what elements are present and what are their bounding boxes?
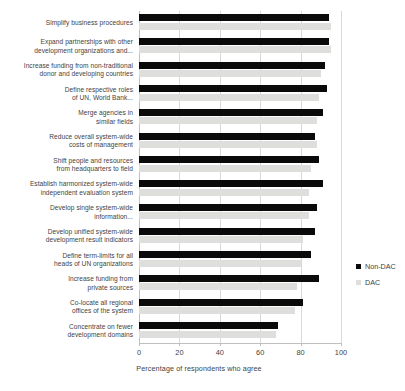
category-label-line: development organizations and...	[0, 47, 133, 55]
category-label-line: heads of UN organizations	[0, 260, 133, 268]
bar-group	[139, 248, 341, 272]
bar-dac	[139, 307, 295, 314]
bar-dac	[139, 23, 331, 30]
bar-dac	[139, 283, 297, 290]
bar-group	[139, 82, 341, 106]
bar-dac	[139, 70, 321, 77]
x-tick-label-20: 20	[175, 348, 183, 357]
category-label: Develop single system-wideinformation...	[0, 204, 133, 221]
bar-non-dac	[139, 180, 323, 187]
category-label: Shift people and resourcesfrom headquart…	[0, 157, 133, 174]
bar-dac	[139, 46, 331, 53]
bar-non-dac	[139, 14, 329, 21]
x-axis-title: Percentage of respondents who agree	[0, 364, 398, 373]
category-label-line: Establish harmonized system-wide	[0, 180, 133, 188]
chart-legend: Non-DAC DAC	[356, 262, 402, 294]
category-label: Simplify business procedures	[0, 19, 133, 27]
x-axis-line	[139, 343, 341, 344]
category-label-line: Define respective roles	[0, 86, 133, 94]
category-label-line: from headquarters to field	[0, 165, 133, 173]
category-label-line: Shift people and resources	[0, 157, 133, 165]
category-label-line: development domains	[0, 331, 133, 339]
category-label-line: Develop unified system-wide	[0, 228, 133, 236]
category-label-line: Develop single system-wide	[0, 204, 133, 212]
x-tick-mark-60	[260, 343, 261, 346]
plot-area	[139, 11, 341, 343]
bar-dac	[139, 260, 301, 267]
category-label-line: Reduce overall system-wide	[0, 133, 133, 141]
legend-swatch-dac-icon	[356, 280, 361, 285]
bar-non-dac	[139, 275, 319, 282]
bar-group	[139, 224, 341, 248]
bar-non-dac	[139, 299, 303, 306]
category-label-line: donor and developing countries	[0, 70, 133, 78]
bar-dac	[139, 117, 317, 124]
x-tick-label-80: 80	[296, 348, 304, 357]
bar-chart: Simplify business proceduresExpand partn…	[0, 0, 405, 391]
category-label: Establish harmonized system-wideindepend…	[0, 180, 133, 197]
category-label: Concentrate on fewerdevelopment domains	[0, 323, 133, 340]
category-label: Define term-limits for allheads of UN or…	[0, 252, 133, 269]
bar-dac	[139, 331, 276, 338]
legend-swatch-non-dac-icon	[356, 264, 361, 269]
category-label-line: private sources	[0, 284, 133, 292]
bar-dac	[139, 94, 319, 101]
category-label-line: development result indicators	[0, 236, 133, 244]
category-label-line: similar fields	[0, 118, 133, 126]
bar-group	[139, 35, 341, 59]
bar-non-dac	[139, 38, 329, 45]
bar-group	[139, 106, 341, 130]
bar-dac	[139, 141, 317, 148]
bar-non-dac	[139, 322, 278, 329]
category-label: Expand partnerships with otherdevelopmen…	[0, 38, 133, 55]
category-label: Increase funding fromprivate sources	[0, 275, 133, 292]
x-tick-mark-80	[301, 343, 302, 346]
category-label-line: Co-locate all regional	[0, 299, 133, 307]
x-tick-mark-0	[139, 343, 140, 346]
category-label-line: independent evaluation system	[0, 189, 133, 197]
x-tick-label-40: 40	[216, 348, 224, 357]
bar-non-dac	[139, 109, 323, 116]
bar-non-dac	[139, 204, 317, 211]
category-label-line: Define term-limits for all	[0, 252, 133, 260]
bar-non-dac	[139, 133, 315, 140]
category-label-line: of UN, World Bank...	[0, 94, 133, 102]
category-label: Increase funding from non-traditionaldon…	[0, 62, 133, 79]
category-label-line: Concentrate on fewer	[0, 323, 133, 331]
bar-group	[139, 319, 341, 343]
bar-group	[139, 272, 341, 296]
category-label-line: Increase funding from non-traditional	[0, 62, 133, 70]
bar-group	[139, 201, 341, 225]
x-tick-label-60: 60	[256, 348, 264, 357]
x-axis-ticks: 020406080100	[139, 346, 341, 358]
gridline-100	[341, 11, 342, 343]
bar-group	[139, 130, 341, 154]
x-tick-mark-20	[179, 343, 180, 346]
bar-dac	[139, 165, 311, 172]
category-label-line: information...	[0, 213, 133, 221]
category-label: Reduce overall system-widecosts of manag…	[0, 133, 133, 150]
bar-dac	[139, 189, 309, 196]
category-label-line: costs of management	[0, 141, 133, 149]
legend-item-dac: DAC	[356, 278, 402, 287]
bar-group	[139, 177, 341, 201]
category-label: Develop unified system-widedevelopment r…	[0, 228, 133, 245]
category-axis-labels: Simplify business proceduresExpand partn…	[0, 11, 136, 343]
x-tick-label-100: 100	[335, 348, 347, 357]
category-label: Co-locate all regionaloffices of the sys…	[0, 299, 133, 316]
bar-non-dac	[139, 62, 325, 69]
bar-dac	[139, 236, 303, 243]
x-tick-label-0: 0	[137, 348, 141, 357]
bar-non-dac	[139, 85, 327, 92]
legend-item-non-dac: Non-DAC	[356, 262, 402, 271]
category-label-line: Increase funding from	[0, 275, 133, 283]
bar-group	[139, 153, 341, 177]
x-tick-mark-100	[341, 343, 342, 346]
category-label: Define respective rolesof UN, World Bank…	[0, 86, 133, 103]
bar-non-dac	[139, 228, 315, 235]
legend-label-dac: DAC	[365, 278, 380, 287]
x-tick-mark-40	[220, 343, 221, 346]
bar-non-dac	[139, 251, 311, 258]
category-label: Merge agencies insimilar fields	[0, 109, 133, 126]
bar-group	[139, 296, 341, 320]
